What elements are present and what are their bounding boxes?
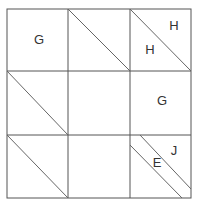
diagonal-r0c2 (130, 9, 191, 71)
diagonal-r1c0 (7, 71, 68, 135)
diagonal-r2c0 (7, 135, 68, 198)
diagonal-r0c1 (68, 9, 130, 71)
label-r1c2: G (157, 93, 167, 108)
label-r0c2-upper: H (169, 18, 178, 33)
label-r2c2-band: E (153, 155, 162, 170)
label-r0c2-lower: H (145, 42, 154, 57)
label-r0c0: G (34, 32, 44, 47)
label-r2c2-upper: J (171, 143, 178, 158)
grid-diagram: G H H G J E (0, 0, 200, 210)
